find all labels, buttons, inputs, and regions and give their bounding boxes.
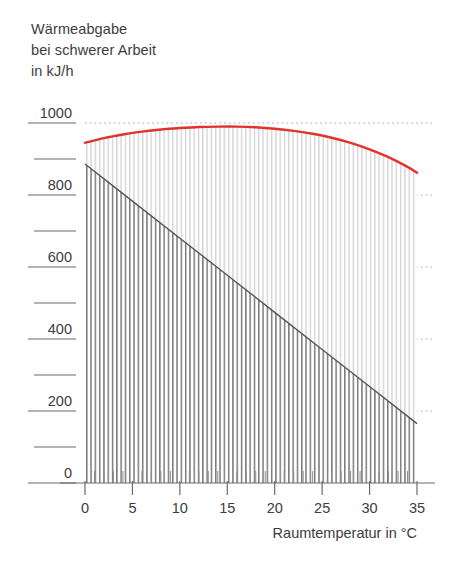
x-tick-label-15: 15 [219,500,235,516]
y-tick-label-800: 800 [48,177,72,193]
x-tick-label-5: 5 [128,500,136,516]
plot-area: 02004006008001000 05101520253035 Raumtem… [0,0,455,578]
y-tick-label-1000: 1000 [40,105,72,121]
x-tick-label-0: 0 [81,500,89,516]
x-tick-label-25: 25 [314,500,330,516]
y-tick-label-600: 600 [48,249,72,265]
y-axis: 02004006008001000 [28,105,76,483]
x-tick-label-30: 30 [362,500,378,516]
chart-figure: Wärmeabgabe bei schwerer Arbeit in kJ/h [0,0,455,578]
x-tick-label-35: 35 [409,500,425,516]
x-tick-label-20: 20 [267,500,283,516]
x-axis-caption: Raumtemperatur in °C [273,525,417,541]
y-tick-label-200: 200 [48,393,72,409]
y-tick-label-400: 400 [48,321,72,337]
x-tick-label-10: 10 [172,500,188,516]
y-tick-label-0: 0 [64,465,72,481]
